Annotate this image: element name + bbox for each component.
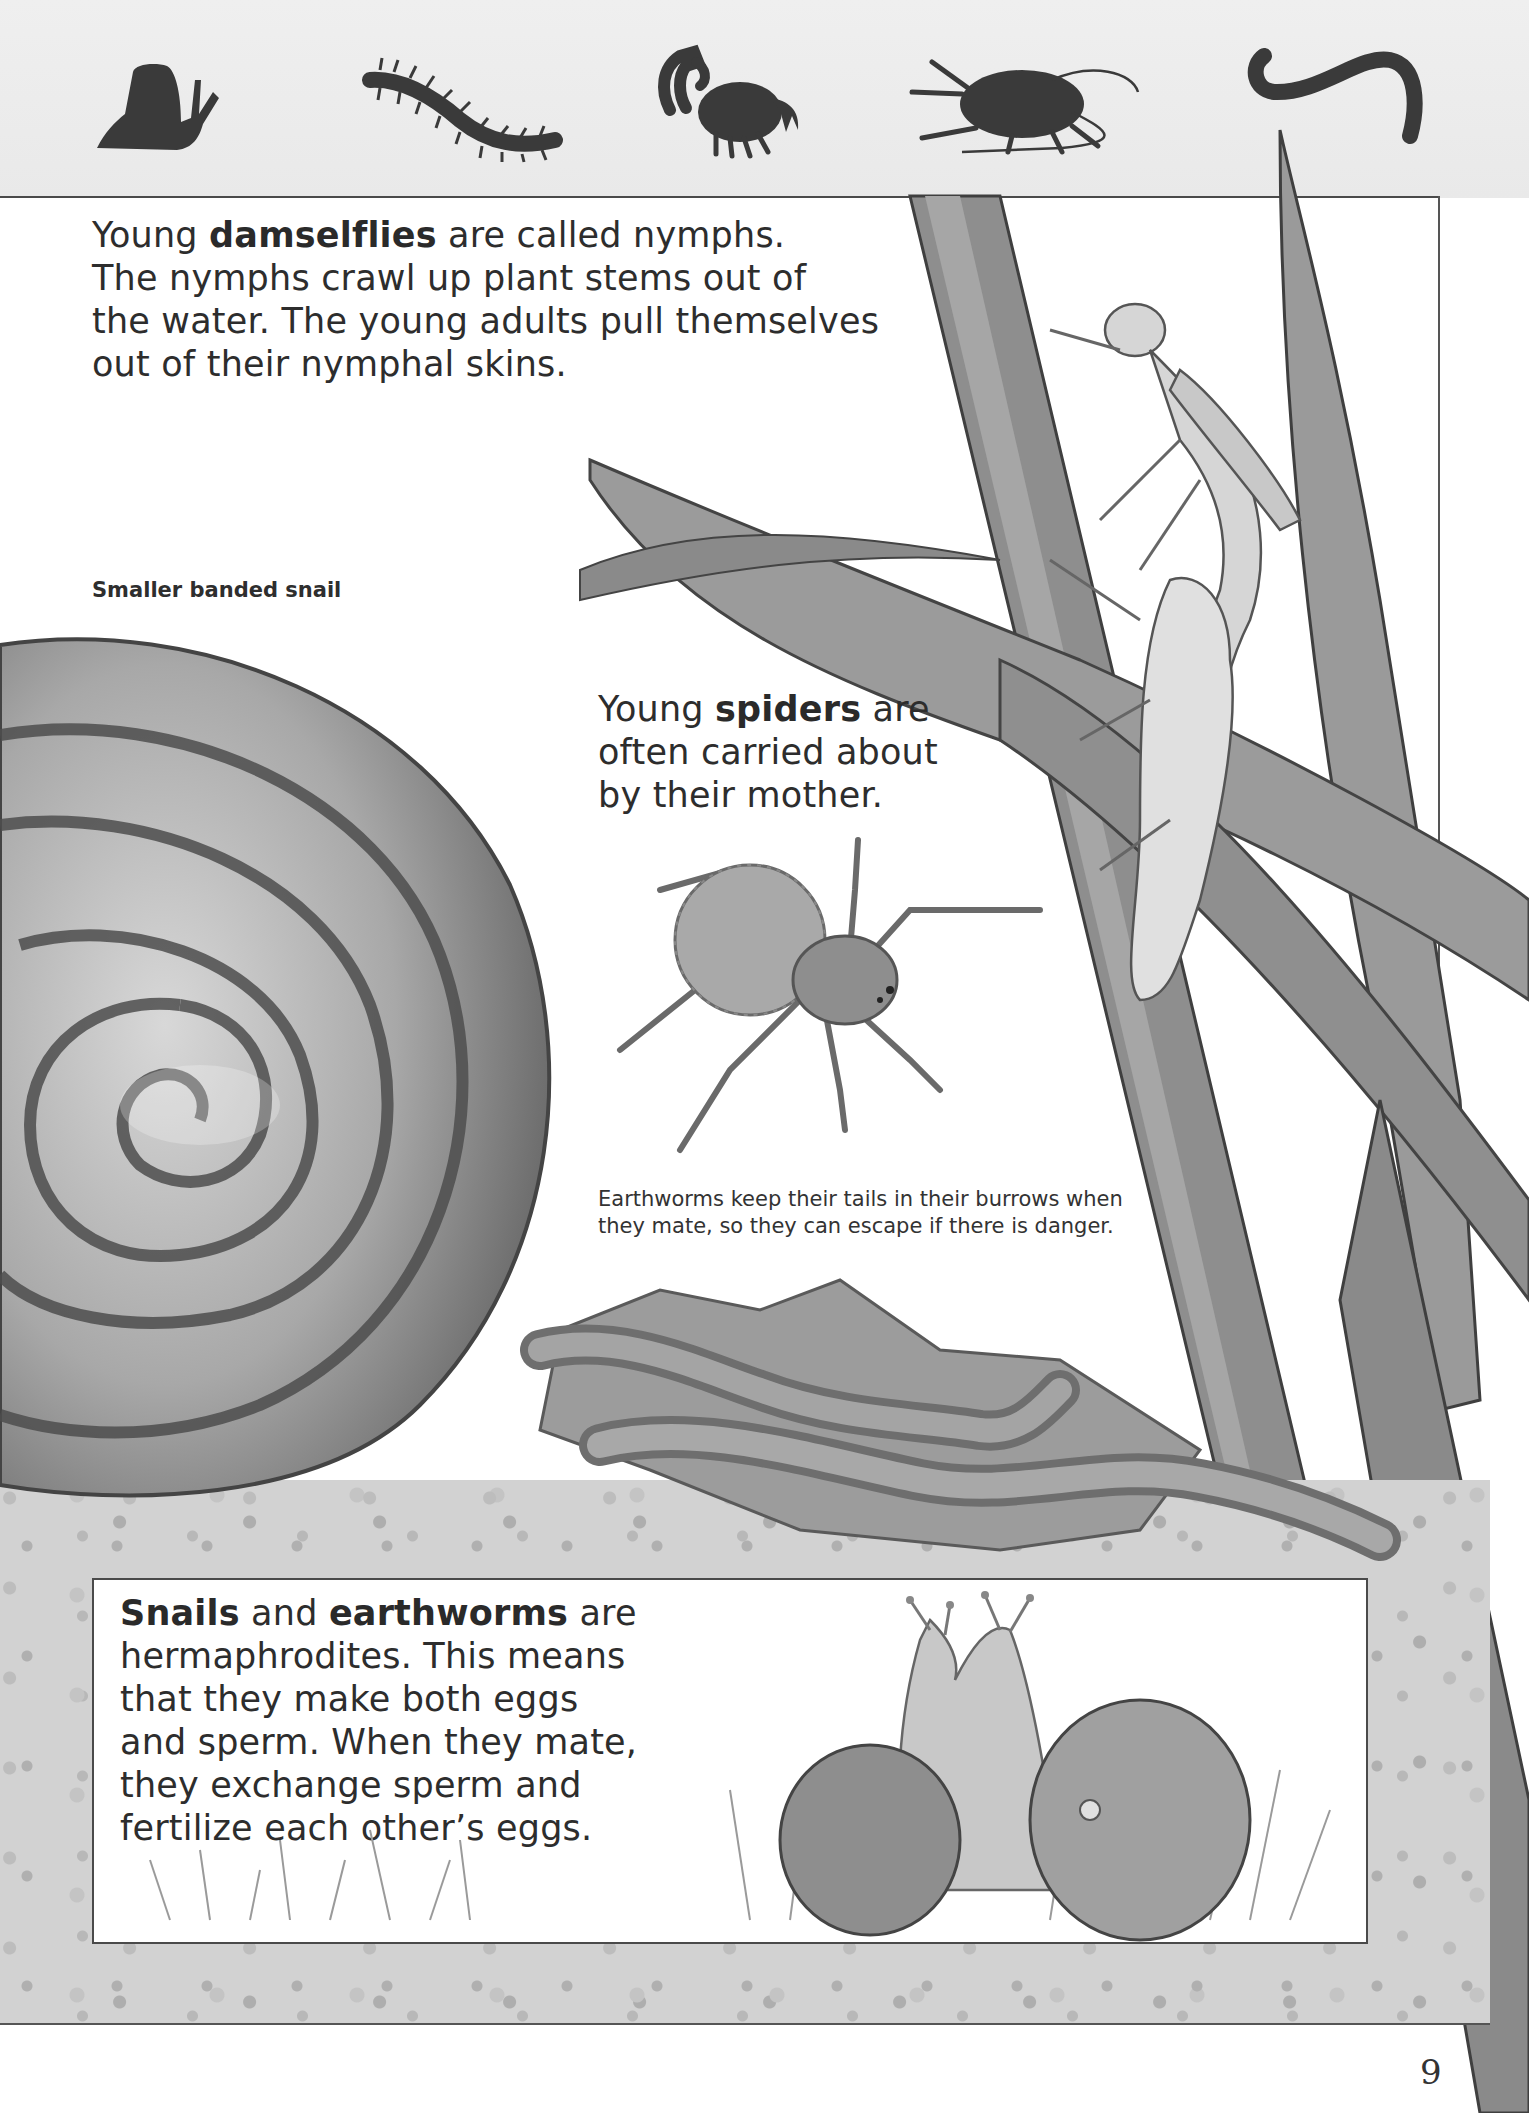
damselfly-line-4: out of their nymphal skins. <box>92 343 879 386</box>
earthworm-caption-line-2: they mate, so they can escape if there i… <box>598 1213 1123 1240</box>
spiders-bold-term: spiders <box>715 689 861 729</box>
banded-snail-shell-illustration <box>0 625 580 1505</box>
spider-line-1: Young spiders are <box>598 688 938 731</box>
frame-bottom-border <box>0 2023 1490 2025</box>
earthworm-caption-line-1: Earthworms keep their tails in their bur… <box>598 1186 1123 1213</box>
mating-earthworms-illustration <box>500 1270 1400 1570</box>
snail-label: Smaller banded snail <box>92 578 341 602</box>
spider-paragraph: Young spiders are often carried about by… <box>598 688 938 817</box>
earthworm-caption: Earthworms keep their tails in their bur… <box>598 1186 1123 1240</box>
damselfly-line-2: The nymphs crawl up plant stems out of <box>92 257 879 300</box>
snail-icon <box>95 62 245 158</box>
spider-line-3: by their mother. <box>598 774 938 817</box>
damselfly-line-1: Young damselflies are called nymphs. <box>92 214 879 257</box>
damselfly-paragraph: Young damselflies are called nymphs. The… <box>92 214 879 386</box>
centipede-icon <box>360 58 565 163</box>
page-number: 9 <box>1420 2052 1442 2092</box>
damselflies-bold-term: damselflies <box>209 215 437 255</box>
spider-line-2: often carried about <box>598 731 938 774</box>
damselfly-line-3: the water. The young adults pull themsel… <box>92 300 879 343</box>
spider-illustration <box>600 830 1040 1150</box>
mating-snails-illustration <box>130 1590 1360 1940</box>
